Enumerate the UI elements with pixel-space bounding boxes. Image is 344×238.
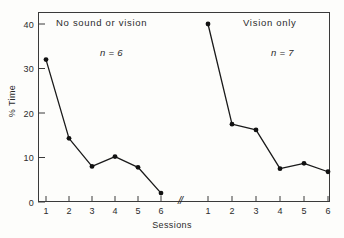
- x-tick-label: 2: [225, 206, 239, 216]
- series-group: [44, 22, 331, 196]
- data-point: [44, 57, 49, 62]
- data-point: [278, 166, 283, 171]
- x-tick-label: 6: [154, 206, 168, 216]
- data-point: [90, 164, 95, 169]
- data-point: [326, 169, 331, 174]
- x-tick-label: 5: [297, 206, 311, 216]
- x-tick-label: 4: [108, 206, 122, 216]
- series-line-vision-only: [208, 24, 328, 172]
- x-tick-label: 5: [131, 206, 145, 216]
- x-tick-label: 2: [62, 206, 76, 216]
- data-point: [206, 22, 211, 27]
- data-point: [230, 122, 235, 127]
- x-tick-label: 3: [249, 206, 263, 216]
- x-tick-label: 1: [201, 206, 215, 216]
- data-layer: [0, 0, 344, 238]
- x-tick-label: 1: [39, 206, 53, 216]
- x-axis-tick-marks: [46, 196, 328, 202]
- x-tick-label: 3: [85, 206, 99, 216]
- data-point: [113, 154, 118, 159]
- data-point: [136, 165, 141, 170]
- data-point: [159, 191, 164, 196]
- x-axis-title: Sessions: [0, 220, 344, 230]
- y-axis-tick-marks: [38, 24, 45, 202]
- data-point: [254, 128, 259, 133]
- series-line-no-sound-or-vision: [46, 60, 161, 194]
- x-tick-label: 6: [321, 206, 335, 216]
- axis-break-icon: //: [178, 194, 182, 206]
- x-tick-label: 4: [273, 206, 287, 216]
- data-point: [67, 136, 72, 141]
- x-axis-tick-labels: 123456123456: [0, 206, 344, 220]
- figure-container: 0 10 20 30 40 % Time No sound or vision …: [0, 0, 344, 238]
- data-point: [302, 161, 307, 166]
